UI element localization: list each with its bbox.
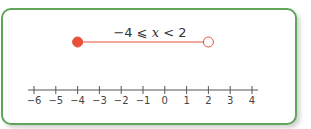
- tick-label: −5: [48, 95, 63, 106]
- tick-label: 4: [249, 95, 255, 106]
- open-endpoint: [203, 37, 213, 47]
- tick-label: −6: [27, 95, 42, 106]
- tick-label: 2: [205, 95, 211, 106]
- tick-label: −4: [70, 95, 85, 106]
- number-line-diagram: −4 ⩽ x < 2 −6−5−4−3−2−101234: [0, 0, 311, 129]
- closed-endpoint: [73, 37, 83, 47]
- tick-label: −3: [92, 95, 107, 106]
- tick-label: −2: [114, 95, 129, 106]
- tick-label: 0: [162, 95, 168, 106]
- tick-label: 3: [227, 95, 233, 106]
- inequality-label: −4 ⩽ x < 2: [113, 25, 186, 40]
- tick-label: −1: [136, 95, 151, 106]
- tick-label: 1: [183, 95, 189, 106]
